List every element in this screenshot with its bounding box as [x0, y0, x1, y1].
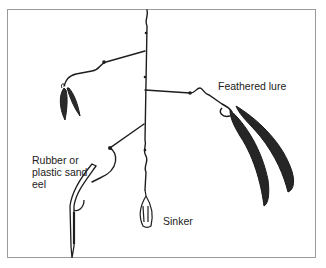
- sand-eel-label: Rubber or plastic sand eel: [32, 154, 102, 190]
- fishing-rig-illustration: [0, 0, 326, 268]
- sinker-label: Sinker: [163, 215, 193, 227]
- upper-dropper-line: [64, 51, 145, 86]
- right-dropper-line: [145, 88, 222, 104]
- feathered-lure-label: Feathered lure: [218, 80, 286, 92]
- small-fly-icon: [60, 84, 80, 120]
- feathered-lure-icon: [220, 104, 293, 206]
- sinker-icon: [140, 190, 152, 228]
- main-line: [144, 10, 147, 190]
